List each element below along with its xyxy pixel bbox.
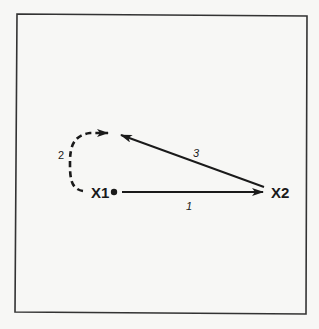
edge-1-label: 1 bbox=[186, 200, 192, 212]
diagram-frame bbox=[15, 14, 307, 314]
node-x2: X2 bbox=[271, 184, 289, 201]
diagram-canvas: 1 3 2 X1 X2 bbox=[0, 0, 319, 329]
x1-dot-marker bbox=[111, 189, 117, 195]
edge-3-label: 3 bbox=[193, 147, 200, 159]
node-x1-label: X1 bbox=[91, 184, 109, 201]
edge-2-label: 2 bbox=[58, 149, 64, 161]
arrow-3-line bbox=[121, 135, 264, 187]
edge-2: 2 bbox=[58, 133, 108, 191]
arrow-2-dashed-curve bbox=[70, 133, 108, 191]
node-x1: X1 bbox=[91, 184, 117, 201]
edge-1: 1 bbox=[122, 192, 263, 212]
node-x2-label: X2 bbox=[271, 184, 289, 201]
edge-3: 3 bbox=[121, 135, 264, 187]
